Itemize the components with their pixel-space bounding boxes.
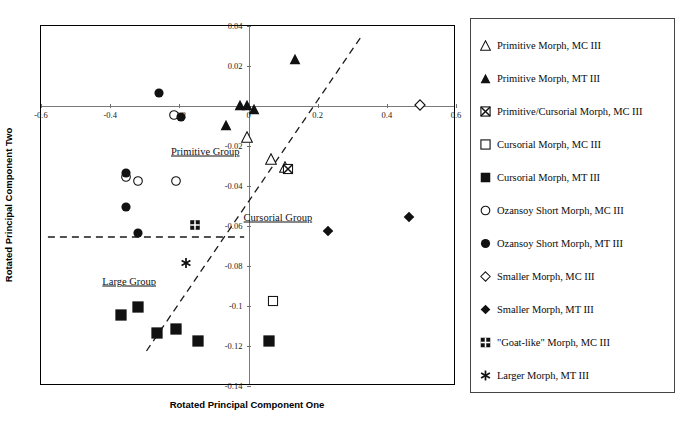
- goat-square-swatch: [479, 336, 492, 349]
- open-square-icon: [480, 139, 491, 150]
- y-tick-mark: [247, 66, 251, 67]
- y-tick-mark: [247, 26, 251, 27]
- legend-item-filled-circle: Ozansoy Short Morph, MT III: [479, 227, 674, 260]
- filled-diamond-icon: [480, 304, 491, 315]
- data-point: [414, 99, 426, 111]
- y-tick-label: -0.14: [225, 381, 243, 391]
- y-tick-label: -0.1: [229, 301, 242, 311]
- legend-item-open-circle: Ozansoy Short Morph, MC III: [479, 194, 674, 227]
- data-point: [176, 112, 187, 123]
- legend-item-label: Cursorial Morph, MC III: [497, 139, 601, 150]
- x-axis-title: Rotated Principal Component One: [170, 399, 325, 410]
- data-point: [170, 176, 181, 187]
- legend: Primitive Morph, MC IIIPrimitive Morph, …: [470, 18, 675, 393]
- x-tick-mark: [456, 104, 457, 108]
- filled-circle-icon: [176, 112, 187, 123]
- filled-circle-icon: [480, 238, 491, 249]
- data-point: [192, 335, 205, 348]
- filled-square-icon: [480, 172, 491, 183]
- data-point: [322, 225, 334, 237]
- y-tick-mark: [247, 146, 251, 147]
- legend-item-filled-triangle: Primitive Morph, MT III: [479, 62, 674, 95]
- filled-square-icon: [263, 335, 276, 348]
- legend-item-label: "Goat-like" Morph, MC III: [497, 337, 610, 348]
- legend-item-label: Cursorial Morph, MT III: [497, 172, 600, 183]
- filled-circle-icon: [120, 202, 131, 213]
- y-zero-axis: [249, 26, 250, 384]
- x-tick-mark: [179, 104, 180, 108]
- legend-item-open-diamond: Smaller Morph, MC III: [479, 260, 674, 293]
- legend-item-label: Ozansoy Short Morph, MT III: [497, 238, 623, 249]
- legend-item-label: Primitive Morph, MT III: [497, 73, 600, 84]
- legend-item-label: Primitive Morph, MC III: [497, 40, 601, 51]
- open-diamond-icon: [414, 99, 426, 111]
- legend-item-goat-square: "Goat-like" Morph, MC III: [479, 326, 674, 359]
- x-tick-label: 0.6: [451, 110, 462, 120]
- data-point: [263, 335, 276, 348]
- data-point: [283, 164, 294, 175]
- x-tick-label: 0.2: [312, 110, 323, 120]
- legend-item-label: Primitive/Cursorial Morph, MC III: [497, 106, 642, 117]
- legend-item-label: Smaller Morph, MT III: [497, 304, 594, 315]
- x-tick-label: -0.6: [34, 110, 47, 120]
- x-tick-label: -0.4: [103, 110, 116, 120]
- data-point: [181, 258, 192, 269]
- data-point: [248, 103, 260, 115]
- legend-item-filled-square: Cursorial Morph, MT III: [479, 161, 674, 194]
- filled-square-icon: [114, 309, 127, 322]
- open-triangle-icon: [480, 40, 491, 51]
- data-point: [265, 153, 277, 165]
- y-tick-mark: [247, 186, 251, 187]
- y-tick-mark: [247, 346, 251, 347]
- data-point: [189, 220, 200, 231]
- open-square-icon: [267, 296, 278, 307]
- x-tick-label: 0.4: [382, 110, 393, 120]
- filled-diamond-icon: [403, 211, 415, 223]
- data-point: [132, 176, 143, 187]
- y-tick-label: -0.06: [225, 221, 243, 231]
- data-point: [131, 301, 144, 314]
- filled-circle-icon: [120, 168, 131, 179]
- cursorial-group-label: Cursorial Group: [244, 212, 313, 223]
- data-point: [220, 119, 232, 131]
- data-point: [169, 323, 182, 336]
- goat-square-icon: [189, 220, 200, 231]
- open-circle-icon: [132, 176, 143, 187]
- filled-square-icon: [150, 327, 163, 340]
- legend-item-label: Larger Morph, MT III: [497, 370, 589, 381]
- data-point: [153, 88, 164, 99]
- y-tick-label: 0.02: [228, 61, 243, 71]
- scatter-plot-figure: -0.6-0.4-0.200.20.40.60.040.020-0.02-0.0…: [0, 0, 685, 430]
- filled-triangle-icon: [220, 119, 232, 131]
- open-triangle-icon: [241, 131, 253, 143]
- open-triangle-swatch: [479, 39, 492, 52]
- open-triangle-icon: [265, 153, 277, 165]
- data-point: [120, 202, 131, 213]
- filled-diamond-icon: [322, 225, 334, 237]
- open-diamond-icon: [480, 271, 491, 282]
- filled-square-icon: [192, 335, 205, 348]
- data-point: [241, 131, 253, 143]
- open-circle-swatch: [479, 204, 492, 217]
- y-tick-mark: [247, 266, 251, 267]
- y-tick-mark: [247, 306, 251, 307]
- crossed-square-swatch: [479, 105, 492, 118]
- y-axis-title: Rotated Principal Component Two: [3, 128, 14, 282]
- data-point: [403, 211, 415, 223]
- y-tick-label: -0.08: [225, 261, 243, 271]
- legend-item-open-square: Cursorial Morph, MC III: [479, 128, 674, 161]
- filled-circle-swatch: [479, 237, 492, 250]
- data-point: [120, 168, 131, 179]
- filled-diamond-swatch: [479, 303, 492, 316]
- goat-square-icon: [480, 337, 491, 348]
- data-point: [150, 327, 163, 340]
- legend-item-asterisk: Larger Morph, MT III: [479, 359, 674, 392]
- y-tick-label: -0.12: [225, 341, 243, 351]
- filled-square-swatch: [479, 171, 492, 184]
- plot-area: -0.6-0.4-0.200.20.40.60.040.020-0.02-0.0…: [40, 25, 455, 385]
- legend-item-open-triangle: Primitive Morph, MC III: [479, 29, 674, 62]
- open-square-swatch: [479, 138, 492, 151]
- data-point: [114, 309, 127, 322]
- legend-item-filled-diamond: Smaller Morph, MT III: [479, 293, 674, 326]
- legend-item-crossed-square: Primitive/Cursorial Morph, MC III: [479, 95, 674, 128]
